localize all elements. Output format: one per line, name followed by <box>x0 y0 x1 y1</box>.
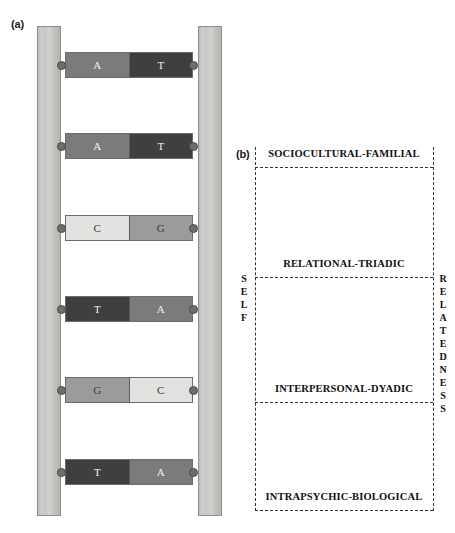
ladder-rung: AT <box>65 133 193 159</box>
base-pair-right: A <box>130 297 193 321</box>
axis-letter: S <box>437 402 449 415</box>
base-pair-left: T <box>66 460 130 484</box>
hierarchy-level-title: RELATIONAL-TRIADIC <box>255 258 433 269</box>
rung-peg-right <box>189 142 198 151</box>
panel-b-label: (b) <box>236 148 249 160</box>
ladder-rung: TA <box>65 459 193 485</box>
hierarchy-level-divider <box>255 510 433 511</box>
hierarchy-level-divider <box>255 167 433 168</box>
axis-letter: E <box>238 285 250 298</box>
axis-letter: S <box>238 272 250 285</box>
rung-peg-left <box>57 61 66 70</box>
rung-peg-left <box>57 224 66 233</box>
relatedness-axis-label: RELATEDNESS <box>437 272 449 415</box>
panel-b-hierarchy-diagram: (b) SOCIOCULTURAL-FAMILIALRELATIONAL-TRI… <box>232 0 455 533</box>
ladder-rail-left <box>37 26 61 516</box>
rung-peg-right <box>189 224 198 233</box>
rung-peg-left <box>57 468 66 477</box>
rung-peg-right <box>189 468 198 477</box>
hierarchy-level-divider <box>255 402 433 403</box>
base-pair-left: A <box>66 53 130 77</box>
rung-peg-right <box>189 305 198 314</box>
axis-letter: T <box>437 324 449 337</box>
axis-letter: L <box>437 298 449 311</box>
ladder-rung: CG <box>65 215 193 241</box>
ladder-rung: AT <box>65 52 193 78</box>
hierarchy-level-title: SOCIOCULTURAL-FAMILIAL <box>255 148 433 159</box>
ladder-rung: TA <box>65 296 193 322</box>
rung-peg-right <box>189 61 198 70</box>
axis-letter: D <box>437 350 449 363</box>
base-pair-right: C <box>130 378 193 402</box>
self-axis-label: SELF <box>238 272 250 324</box>
base-pair-left: A <box>66 134 130 158</box>
axis-letter: L <box>238 298 250 311</box>
base-pair-right: T <box>130 134 193 158</box>
axis-letter: E <box>437 376 449 389</box>
panel-a-label: (a) <box>11 18 24 30</box>
hierarchy-left-border <box>255 147 256 511</box>
axis-letter: F <box>238 311 250 324</box>
panel-a-dna-ladder: (a) ATATCGTAGCTA <box>0 0 232 533</box>
base-pair-left: T <box>66 297 130 321</box>
axis-letter: N <box>437 363 449 376</box>
rung-peg-right <box>189 386 198 395</box>
base-pair-right: T <box>130 53 193 77</box>
base-pair-left: G <box>66 378 130 402</box>
hierarchy-level-title: INTRAPSYCHIC-BIOLOGICAL <box>255 491 433 502</box>
axis-letter: S <box>437 389 449 402</box>
rung-peg-left <box>57 142 66 151</box>
base-pair-right: A <box>130 460 193 484</box>
rung-peg-left <box>57 305 66 314</box>
base-pair-right: G <box>130 216 193 240</box>
axis-letter: R <box>437 272 449 285</box>
hierarchy-level-title: INTERPERSONAL-DYADIC <box>255 383 433 394</box>
ladder-rung: GC <box>65 377 193 403</box>
axis-letter: E <box>437 285 449 298</box>
hierarchy-level-divider <box>255 277 433 278</box>
hierarchy-right-border <box>433 147 434 511</box>
base-pair-left: C <box>66 216 130 240</box>
axis-letter: A <box>437 311 449 324</box>
rung-peg-left <box>57 386 66 395</box>
ladder-rail-right <box>198 26 222 516</box>
axis-letter: E <box>437 337 449 350</box>
